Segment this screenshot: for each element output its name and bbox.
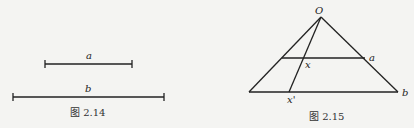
figure-2-14: a b 图 2.14 <box>13 50 164 118</box>
figure-caption: 图 2.15 <box>309 111 344 122</box>
triangle-right-side <box>321 17 398 92</box>
segment-b <box>13 93 164 101</box>
figure-caption: 图 2.14 <box>70 107 105 118</box>
label-x: x <box>305 59 311 70</box>
cevian-line <box>289 17 321 92</box>
segment-b-label: b <box>85 83 91 94</box>
diagram-canvas: a b 图 2.14 O a x x' b 图 2.15 <box>0 0 414 128</box>
triangle-left-side <box>249 17 321 92</box>
segment-a <box>45 60 132 68</box>
label-b: b <box>402 87 408 98</box>
label-o: O <box>315 5 323 16</box>
label-x-prime: x' <box>287 94 295 105</box>
segment-a-label: a <box>86 50 92 61</box>
label-a: a <box>369 52 375 63</box>
figure-2-15: O a x x' b 图 2.15 <box>249 5 408 122</box>
